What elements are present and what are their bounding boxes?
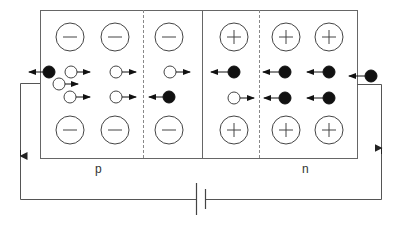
positive-ion-icon (220, 23, 248, 51)
negative-ion-icon (56, 23, 84, 51)
negative-ion-icon (155, 116, 183, 144)
p-region-label: p (95, 162, 102, 176)
negative-ion-icon (155, 23, 183, 51)
positive-ion-icon (272, 116, 300, 144)
n-region-label: n (302, 162, 309, 176)
positive-ion-icon (272, 23, 300, 51)
negative-ion-icon (56, 116, 84, 144)
positive-ion-icon (220, 116, 248, 144)
semiconductor-block (41, 10, 358, 159)
negative-ion-icon (101, 23, 129, 51)
positive-ion-icon (315, 23, 343, 51)
negative-ion-icon (101, 116, 129, 144)
pn-junction-diagram (0, 0, 397, 226)
battery-icon (197, 183, 206, 215)
positive-ion-icon (315, 116, 343, 144)
